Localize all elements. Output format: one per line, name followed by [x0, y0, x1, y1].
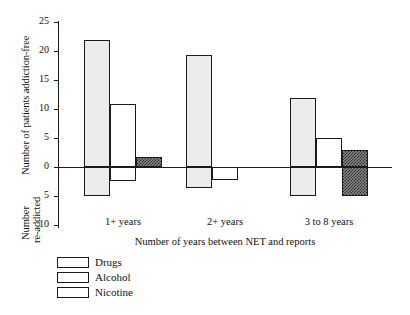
bar-alcohol-group3-positive [316, 138, 342, 167]
y-tick-label: 20 [39, 44, 49, 56]
y-axis-title-negative-line1: Number [20, 184, 31, 240]
y-tick: 0 [54, 167, 58, 168]
y-tick: 20 [54, 51, 58, 52]
x-group-label: 1+ years [73, 216, 173, 227]
y-tick: 5 [54, 138, 58, 139]
bar-alcohol-group1-negative [110, 167, 136, 181]
legend-swatch-alcohol [57, 272, 89, 283]
bar-nicotine-group3-negative [342, 167, 368, 196]
legend-label: Nicotine [95, 286, 133, 299]
y-tick-label: 25 [39, 15, 49, 27]
y-axis-title-positive: Number of patients addiction-free [20, 15, 31, 175]
y-axis-title-negative-line2: re-addicted [31, 181, 42, 243]
bar-drugs-group1-positive [84, 40, 110, 167]
y-tick: 10 [54, 225, 58, 226]
bar-alcohol-group1-positive [110, 104, 136, 167]
y-tick-label: 10 [39, 218, 49, 230]
legend-swatch-nicotine [57, 287, 89, 298]
bar-drugs-group2-negative [186, 167, 212, 188]
y-tick: 10 [54, 109, 58, 110]
bar-nicotine-group1-positive [136, 157, 162, 167]
bar-drugs-group3-negative [290, 167, 316, 196]
plot-area: 2520151050510 [58, 18, 392, 230]
x-group-label: 3 to 8 years [279, 216, 379, 227]
x-group-label: 2+ years [175, 216, 275, 227]
x-axis-title: Number of years between NET and reports [58, 236, 392, 247]
y-tick: 15 [54, 80, 58, 81]
bar-alcohol-group2-negative [212, 167, 238, 180]
y-tick-label: 15 [39, 73, 49, 85]
bar-chart: Number of patients addiction-free Number… [0, 0, 410, 315]
legend-label: Alcohol [95, 271, 130, 284]
y-tick-label: 10 [39, 102, 49, 114]
bar-drugs-group2-positive [186, 55, 212, 167]
legend-swatch-drugs [57, 257, 89, 268]
legend-label: Drugs [95, 256, 122, 269]
y-tick-label: 5 [44, 189, 49, 201]
bar-nicotine-group3-positive [342, 150, 368, 167]
bar-drugs-group3-positive [290, 98, 316, 167]
y-tick-label: 0 [44, 160, 49, 172]
y-tick: 25 [54, 22, 58, 23]
bar-drugs-group1-negative [84, 167, 110, 196]
y-tick: 5 [54, 196, 58, 197]
y-tick-label: 5 [44, 131, 49, 143]
y-axis-line [58, 21, 59, 228]
